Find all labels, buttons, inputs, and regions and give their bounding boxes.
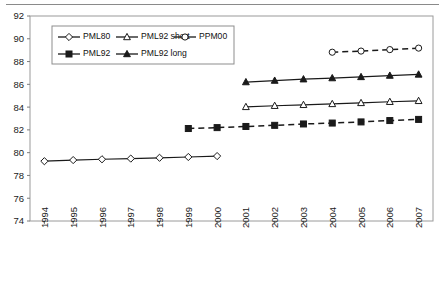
x-axis-tick-label: 1997	[125, 207, 136, 228]
y-axis-tick-label: 86	[13, 79, 24, 90]
chart-canvas: 7476788082848688909219941995199619971998…	[0, 0, 445, 281]
legend-label: PPM00	[199, 31, 227, 41]
legend-label: PML92 long	[141, 48, 187, 58]
marker-open-diamond	[70, 156, 77, 163]
x-axis-tick-label: 2007	[413, 207, 424, 228]
y-axis-tick-label: 74	[13, 215, 24, 226]
marker-filled-square	[416, 116, 422, 122]
x-axis-tick-label: 1999	[183, 207, 194, 228]
y-axis-tick-label: 90	[13, 33, 24, 44]
marker-open-diamond	[98, 156, 105, 163]
x-axis-tick-label: 1998	[154, 207, 165, 228]
marker-filled-square	[387, 118, 393, 124]
marker-open-circle	[416, 45, 422, 51]
line-chart: 7476788082848688909219941995199619971998…	[0, 0, 445, 281]
y-axis-tick-label: 82	[13, 124, 24, 135]
x-axis-tick-label: 2001	[240, 207, 251, 228]
x-axis-tick-label: 1995	[68, 207, 79, 228]
series-line	[332, 48, 418, 52]
marker-open-circle	[182, 34, 188, 40]
marker-filled-square	[329, 120, 335, 126]
x-axis-tick-label: 1996	[97, 207, 108, 228]
marker-filled-square	[66, 51, 72, 57]
legend-label: PML92	[83, 48, 110, 58]
x-axis-tick-label: 1994	[39, 207, 50, 228]
marker-filled-square	[358, 119, 364, 125]
y-axis-tick-label: 80	[13, 147, 24, 158]
series-pml92-long	[242, 71, 422, 85]
top-divider-rule	[6, 4, 439, 5]
marker-filled-square	[243, 123, 249, 129]
marker-filled-square	[272, 122, 278, 128]
chart-legend: PML80PML92 shortPPM00PML92PML92 long	[52, 26, 234, 64]
legend-label: PML80	[83, 31, 110, 41]
marker-filled-square	[185, 126, 191, 132]
x-axis-tick-label: 2003	[298, 207, 309, 228]
y-axis-tick-label: 92	[13, 10, 24, 21]
series-pml92	[185, 116, 421, 131]
marker-open-diamond	[156, 154, 163, 161]
marker-open-circle	[358, 48, 364, 54]
y-axis-tick-label: 84	[13, 102, 24, 113]
marker-open-diamond	[214, 152, 221, 159]
x-axis-tick-label: 2002	[269, 207, 280, 228]
x-axis-tick-label: 2006	[384, 207, 395, 228]
y-axis-tick-label: 78	[13, 170, 24, 181]
marker-open-diamond	[41, 158, 48, 165]
x-axis-tick-label: 2005	[356, 207, 367, 228]
y-axis-tick-label: 76	[13, 193, 24, 204]
series-ppm00	[329, 45, 422, 55]
marker-filled-square	[214, 125, 220, 131]
series-pml80	[41, 152, 221, 164]
x-axis-tick-label: 2004	[327, 207, 338, 228]
x-axis-tick-label: 2000	[212, 207, 223, 228]
marker-filled-square	[300, 121, 306, 127]
marker-open-circle	[329, 49, 335, 55]
marker-open-diamond	[127, 155, 134, 162]
series-pml92-short	[242, 97, 422, 109]
marker-open-diamond	[185, 153, 192, 160]
marker-open-circle	[387, 46, 393, 52]
y-axis-tick-label: 88	[13, 56, 24, 67]
